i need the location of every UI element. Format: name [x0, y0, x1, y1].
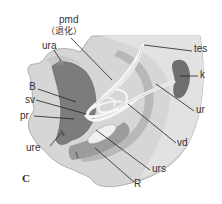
urachus	[58, 61, 64, 66]
label-pr: pr	[20, 111, 29, 121]
label-ure: ure	[26, 143, 40, 153]
label-tes: tes	[194, 44, 207, 54]
label-k: k	[200, 70, 205, 80]
label-pmd-note: （退化）	[46, 27, 82, 36]
label-ur: ur	[196, 105, 205, 115]
label-urs: urs	[152, 164, 166, 174]
label-R: R	[134, 179, 141, 189]
panel-label: C	[22, 172, 30, 184]
label-vd: vd	[177, 138, 188, 148]
label-ura: ura	[42, 41, 56, 51]
label-sv: sv	[25, 95, 35, 105]
urogenital-diagram: pmd （退化） ura tes k B sv pr ur vd ure urs…	[0, 0, 222, 204]
label-B: B	[29, 82, 36, 92]
label-pmd: pmd	[59, 15, 78, 25]
